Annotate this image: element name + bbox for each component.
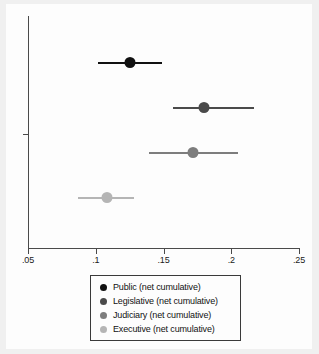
x-tick-label: .1 [92,255,99,265]
confidence-interval-bar [173,107,254,109]
x-tick-mark [299,249,300,254]
x-tick-label: .15 [158,255,170,265]
chart-legend: Public (net cumulative)Legislative (net … [90,275,241,341]
chart-figure: .05.1.15.2.25 Public (net cumulative)Leg… [0,0,319,354]
legend-items: Public (net cumulative)Legislative (net … [97,280,235,336]
legend-item-label: Executive (net cumulative) [113,324,215,334]
legend-item[interactable]: Executive (net cumulative) [97,322,235,336]
x-tick-mark [28,249,29,254]
legend-item-label: Judiciary (net cumulative) [113,310,211,320]
point-estimate-marker [101,192,112,203]
legend-marker-icon [100,298,107,305]
point-estimate-marker [188,147,199,158]
x-tick-mark [164,249,165,254]
legend-marker-icon [100,326,107,333]
x-tick-label: .05 [22,255,34,265]
legend-item-label: Public (net cumulative) [113,282,201,292]
y-axis-line [28,16,29,248]
legend-item[interactable]: Legislative (net cumulative) [97,294,235,308]
data-point-row [6,56,319,70]
legend-item[interactable]: Public (net cumulative) [97,280,235,294]
point-estimate-marker [199,102,210,113]
data-point-row [6,191,319,205]
data-point-row [6,146,319,160]
legend-marker-icon [100,284,107,291]
legend-item-label: Legislative (net cumulative) [113,296,218,306]
data-point-row [6,101,319,115]
x-tick-mark [231,249,232,254]
chart-canvas: .05.1.15.2.25 Public (net cumulative)Leg… [6,4,312,349]
point-estimate-marker [124,57,135,68]
x-tick-mark [96,249,97,254]
legend-item[interactable]: Judiciary (net cumulative) [97,308,235,322]
legend-marker-icon [100,312,107,319]
x-tick-label: .2 [228,255,235,265]
x-tick-label: .25 [293,255,305,265]
y-axis-tick [23,134,28,135]
